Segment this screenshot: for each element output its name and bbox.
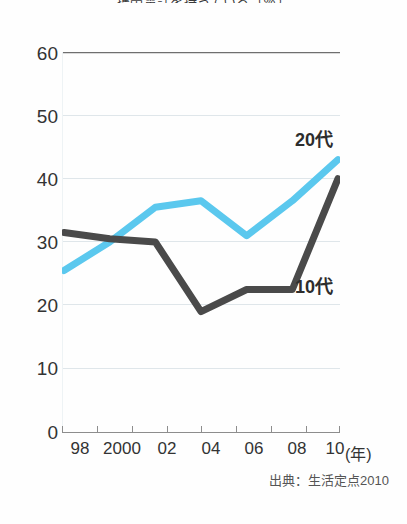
- x-tick-label-08: 08: [288, 440, 307, 457]
- chart-figure: 携帯電話を持っている（％） 60 50 40 30 20 10 0 20代 10…: [0, 0, 407, 524]
- y-tick-label-50: 50: [18, 107, 58, 126]
- x-tick-mark-0: [62, 426, 63, 433]
- y-tick-label-20: 20: [18, 296, 58, 315]
- x-tick-label-06: 06: [245, 440, 264, 457]
- x-tick-mark-6: [271, 426, 272, 433]
- x-tick-mark-3: [167, 426, 168, 433]
- x-tick-mark-2: [132, 426, 133, 433]
- x-tick-label-10: 10: [326, 440, 345, 457]
- x-tick-label-2000: 2000: [103, 440, 141, 457]
- x-tick-mark-8: [339, 426, 340, 433]
- x-tick-mark-5: [236, 426, 237, 433]
- x-tick-label-04: 04: [202, 440, 221, 457]
- x-tick-mark-1: [97, 426, 98, 433]
- series-line-20dai: [64, 160, 338, 271]
- y-tick-label-40: 40: [18, 170, 58, 189]
- x-axis-unit-label: (年): [345, 441, 372, 465]
- y-tick-label-60: 60: [18, 44, 58, 63]
- x-tick-mark-7: [306, 426, 307, 433]
- y-tick-label-10: 10: [18, 359, 58, 378]
- plot-svg: [62, 52, 340, 434]
- chart-title: 携帯電話を持っている（％）: [0, 0, 407, 3]
- series-label-20dai: 20代: [295, 131, 333, 149]
- y-tick-label-30: 30: [18, 233, 58, 252]
- y-tick-label-0: 0: [18, 423, 58, 442]
- x-tick-label-02: 02: [158, 440, 177, 457]
- x-tick-mark-4: [201, 426, 202, 433]
- series-label-10dai: 10代: [295, 278, 333, 296]
- x-tick-label-98: 98: [71, 440, 90, 457]
- plot-area: [62, 52, 340, 432]
- source-note: 出典：生活定点2010: [269, 470, 389, 489]
